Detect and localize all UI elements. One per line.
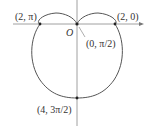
x-axis-arrow-icon <box>139 22 144 26</box>
label-0-pi-2: (0, π/2) <box>86 38 116 50</box>
point-2-pi <box>39 23 42 26</box>
point-4-3pi-2 <box>76 97 79 100</box>
point-origin <box>75 22 78 25</box>
label-origin: O <box>66 27 73 38</box>
label-2-0: (2, 0) <box>117 11 139 23</box>
label-2-pi: (2, π) <box>15 11 37 23</box>
cardioid-diagram: (2, π) (2, 0) O (0, π/2) (4, 3π/2) <box>0 0 150 128</box>
label-4-3pi-2: (4, 3π/2) <box>37 104 72 116</box>
leader-line <box>79 27 85 37</box>
point-2-0 <box>114 23 117 26</box>
